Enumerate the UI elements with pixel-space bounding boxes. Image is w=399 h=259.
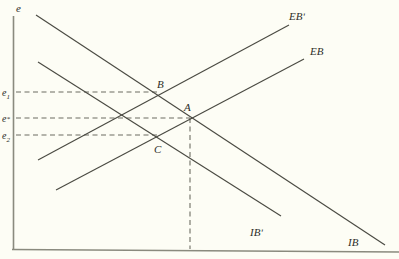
x-axis xyxy=(12,250,399,253)
point-label-b: B xyxy=(157,78,164,90)
point-label-a: A xyxy=(183,101,191,113)
tick-label-e1: e1 xyxy=(2,87,10,101)
curve-label-ib: IB xyxy=(347,236,359,248)
point-label-c: C xyxy=(154,143,162,155)
tick-label-e2: e2 xyxy=(2,130,10,144)
curve-eb xyxy=(56,59,304,190)
y-axis-label: e xyxy=(16,2,21,14)
tick-label-estar: e* xyxy=(2,113,10,124)
curve-label-eb-prime: EBʹ xyxy=(288,10,305,22)
swan-diagram: e e1 e* e2 EBʹ EB IBʹ IB B A C xyxy=(0,0,399,259)
curve-label-eb: EB xyxy=(309,45,324,57)
curve-ib xyxy=(36,15,385,245)
curve-label-ib-prime: IBʹ xyxy=(249,226,263,238)
